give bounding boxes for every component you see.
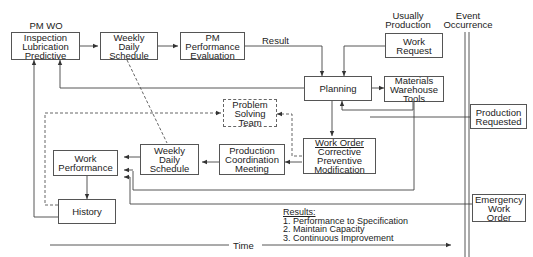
box-line: Schedule xyxy=(150,164,190,173)
box-line: Modification xyxy=(314,165,365,174)
box-line: Requested xyxy=(476,117,522,126)
work-request-box: Work Request xyxy=(385,33,443,58)
work-order-box: Work Order Corrective Preventive Modific… xyxy=(303,138,376,174)
box-line: Request xyxy=(396,46,431,55)
usually-production-label: Usually Production xyxy=(378,11,438,29)
pm-wo-label: PM WO xyxy=(26,21,66,30)
maintenance-workflow-diagram: PM WO Usually Production Event Occurrenc… xyxy=(0,0,533,257)
materials-warehouse-tools-box: Materials Warehouse Tools xyxy=(384,76,444,102)
time-label: Time xyxy=(233,241,254,250)
problem-solving-team-box: Problem Solving Team xyxy=(223,99,277,127)
result-label: Result xyxy=(262,36,289,45)
results-item: 3. Continuous Improvement xyxy=(283,234,408,243)
emergency-work-order-box: Emergency Work Order xyxy=(472,194,526,222)
history-box: History xyxy=(58,199,116,224)
production-text: Production xyxy=(378,20,438,29)
box-line: Order xyxy=(487,213,511,222)
inspection-box: Inspection Lubrication Predictive xyxy=(11,32,80,60)
box-line: Predictive xyxy=(25,51,67,60)
box-line: Evaluation xyxy=(190,51,234,60)
box-line: Performance xyxy=(58,163,112,172)
box-line: Meeting xyxy=(235,164,269,173)
box-line: History xyxy=(72,207,102,216)
planning-box: Planning xyxy=(304,76,372,101)
results-list: Results: 1. Performance to Specification… xyxy=(283,208,408,242)
work-performance-box: Work Performance xyxy=(53,150,118,176)
production-requested-box: Production Requested xyxy=(470,104,527,129)
box-line: Planning xyxy=(320,84,357,93)
event-occurrence-label: Event Occurrence xyxy=(440,11,496,29)
weekly-daily-schedule-bottom-box: Weekly Daily Schedule xyxy=(140,144,199,175)
box-line: Team xyxy=(238,118,261,127)
pm-performance-evaluation-box: PM Performance Evaluation xyxy=(180,32,245,60)
box-line: Tools xyxy=(403,94,425,103)
production-coordination-meeting-box: Production Coordination Meeting xyxy=(219,144,285,175)
weekly-daily-schedule-top-box: Weekly Daily Schedule xyxy=(100,32,158,60)
occurrence-text: Occurrence xyxy=(440,20,496,29)
box-line: Schedule xyxy=(109,51,149,60)
